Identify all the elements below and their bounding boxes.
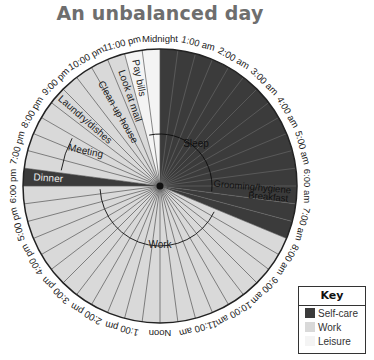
hour-label: 1:00 pm [104,319,140,339]
hour-label: 6:00 am [302,169,313,203]
hour-label: 11:00 pm [101,33,142,54]
hour-label: 7:00 pm [7,130,27,166]
hour-label: Noon [149,328,172,339]
segment-label: Work [148,239,172,250]
hour-label: 11:00 am [178,319,219,340]
hour-label: 1:00 am [180,33,216,53]
work-swatch [305,322,315,332]
hour-label: Midnight [142,33,178,44]
self-care-swatch [305,308,315,318]
legend-key: Key Self-care Work Leisure [298,286,366,354]
center-dot [157,183,164,190]
segment-label: Dinner [33,171,64,184]
leisure-swatch [305,336,315,346]
hour-label: 7:00 am [293,206,313,242]
hour-label: 5:00 am [293,130,313,166]
key-item-leisure: Leisure [299,334,365,348]
key-item-self-care: Self-care [299,306,365,320]
hour-label: 6:00 pm [7,169,18,203]
key-item-work: Work [299,320,365,334]
segment-label: Sleep [183,138,209,149]
key-title: Key [299,287,365,306]
hour-label: 5:00 pm [7,206,27,242]
